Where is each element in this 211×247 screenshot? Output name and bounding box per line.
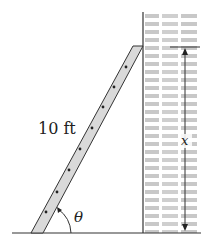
angle-label: θ [74,208,83,226]
ladder [31,46,143,233]
ladder-diagram: x 10 ft θ [0,0,211,247]
wall-texture [143,12,201,233]
height-label: x [181,133,189,148]
angle-arc [57,207,71,233]
ladder-length-label: 10 ft [38,119,76,138]
